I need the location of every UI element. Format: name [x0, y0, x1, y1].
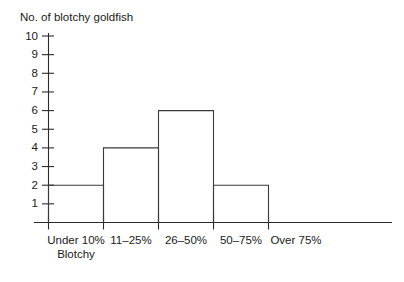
x-tick-label-line: 26–50% [165, 234, 207, 246]
y-tick-label: 1 [32, 197, 38, 209]
histogram-plot: 12345678910 Under 10%Blotchy11–25%26–50%… [0, 0, 404, 282]
x-tick-label-line: Over 75% [270, 234, 321, 246]
x-tick-label-line: 50–75% [220, 234, 262, 246]
x-tick-label-line: 11–25% [110, 234, 151, 246]
x-tick-label: Under 10%Blotchy [47, 234, 105, 260]
bar [104, 148, 159, 223]
y-tick-label: 9 [32, 48, 38, 60]
bar [49, 185, 104, 222]
chart-container: No. of blotchy goldfish 12345678910 Unde… [0, 0, 404, 282]
x-tick-label: Over 75% [270, 234, 321, 246]
x-tick-label: 26–50% [165, 234, 207, 246]
y-tick-label: 10 [25, 30, 38, 42]
y-tick-label: 3 [32, 160, 38, 172]
bar [159, 111, 214, 223]
y-tick-label: 8 [32, 67, 38, 79]
x-axis-tick-labels: Under 10%Blotchy11–25%26–50%50–75%Over 7… [47, 234, 321, 260]
x-tick-label: 50–75% [220, 234, 262, 246]
x-tick-label: 11–25% [110, 234, 151, 246]
y-tick-label: 2 [32, 179, 38, 191]
y-tick-label: 6 [32, 104, 38, 116]
bar-series [49, 111, 269, 223]
y-tick-label: 5 [32, 123, 38, 135]
y-tick-label: 4 [32, 141, 39, 153]
y-axis-tick-labels: 12345678910 [25, 30, 38, 210]
x-tick-label-line: Blotchy [57, 248, 95, 260]
x-tick-label-line: Under 10% [47, 234, 105, 246]
y-tick-label: 7 [32, 85, 38, 97]
bar [214, 185, 269, 222]
